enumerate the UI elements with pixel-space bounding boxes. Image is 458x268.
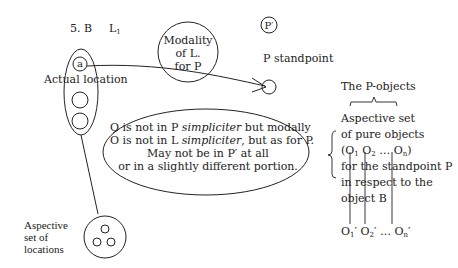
ellipse-line-2: O is not in L simpliciter, but as for P. [110, 134, 306, 147]
p-standpoint-label: P standpoint [263, 52, 333, 65]
aspective-objects-line-1: Aspective set [341, 112, 415, 125]
ellipse-line-2b: simpliciter [182, 134, 242, 147]
aspective-locations-circle [84, 216, 126, 258]
aspective-objects-line-4: for the standpoint P [341, 160, 452, 173]
ellipse-line-2a: O is not in L [110, 134, 182, 147]
ellipse-line-1a: O is not in P [110, 121, 182, 134]
p-objects-title: The P-objects [341, 80, 416, 93]
a-label: a [74, 57, 86, 70]
location-circle-1 [72, 92, 88, 108]
modality-line-3: for P [158, 60, 218, 73]
small-circle-left [93, 238, 101, 246]
diagram-canvas: 5. B L1 Modality of L. for P P′ P standp… [0, 0, 458, 268]
objects-close: ) [407, 144, 411, 157]
ellipse-line-1c: but modally [241, 121, 310, 134]
primed-objects: O1′ O2′ … On′ [341, 225, 411, 242]
ellipse-line-4: or in a slightly different portion. [110, 160, 306, 173]
aspective-locations-line-3: locations [24, 243, 64, 256]
modality-line-2: of L. [158, 47, 218, 60]
ellipse-line-1: O is not in P simpliciter but modally [110, 121, 306, 134]
modality-line-1: Modality [158, 34, 218, 47]
ellipse-line-3: May not be in P′ at all [110, 147, 306, 160]
aspective-objects-line-5: in respect to the [341, 176, 433, 189]
o2: O [359, 144, 372, 157]
small-circle-right [107, 238, 115, 246]
l1-subscript: 1 [116, 28, 120, 36]
left-brace [328, 131, 336, 178]
o1-prime-letter: O [341, 225, 350, 238]
aspective-objects-line-3: (O1 O2 … On) [341, 144, 412, 161]
connector-line [81, 135, 98, 214]
ellipse-line-2c: , but as for P. [241, 134, 314, 147]
aspective-objects-line-2: of pure objects [341, 128, 424, 141]
ellipse-line-1b: simpliciter [182, 121, 242, 134]
figure-label: 5. B [70, 22, 92, 35]
objects-dots: … O [376, 144, 403, 157]
top-brace [350, 97, 397, 106]
location-circle-2 [72, 113, 88, 129]
on-prime-letter: … O [376, 225, 403, 238]
l1-label: L1 [109, 22, 121, 39]
objects-open: (O [341, 144, 354, 157]
p-standpoint-circle [262, 80, 276, 94]
small-circle-top [101, 225, 109, 233]
o2-prime-letter: O [357, 225, 370, 238]
on-prime-mark: ′ [408, 225, 411, 238]
aspective-objects-line-6: object B [341, 192, 387, 205]
p-prime-label: P′ [259, 19, 279, 32]
actual-location-label: Actual location [44, 73, 128, 86]
